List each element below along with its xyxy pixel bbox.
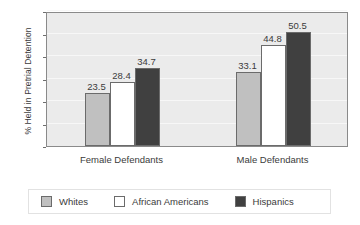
x-axis-category-label: Male Defendants	[197, 154, 348, 165]
bar-value-label: 44.8	[255, 34, 290, 44]
bar-value-label: 33.1	[230, 61, 265, 71]
x-axis-category-label: Female Defendants	[46, 154, 197, 165]
plot-area	[46, 12, 348, 147]
bar	[110, 82, 135, 146]
y-axis-tick-mark	[43, 57, 46, 58]
legend-item-label: Whites	[59, 196, 88, 207]
y-axis-tick-mark	[43, 35, 46, 36]
y-axis-tick-mark	[43, 125, 46, 126]
bar-value-label: 50.5	[280, 21, 315, 31]
bar	[236, 72, 261, 146]
legend-item-label: African Americans	[132, 196, 209, 207]
legend-item-label: Hispanics	[253, 196, 294, 207]
plot-inner	[47, 13, 347, 146]
y-axis-title: % Held in Pretrial Detention	[23, 6, 33, 156]
legend-swatch-icon	[114, 196, 125, 207]
y-axis-tick-mark	[43, 80, 46, 81]
y-axis-tick-mark	[43, 102, 46, 103]
y-axis-tick-mark	[43, 147, 46, 148]
legend-swatch-icon	[41, 196, 52, 207]
bar-chart: % Held in Pretrial Detention 01020304050…	[0, 0, 360, 225]
y-axis-tick-mark	[43, 12, 46, 13]
chart-legend: WhitesAfrican AmericansHispanics	[28, 189, 331, 214]
legend-item[interactable]: African Americans	[114, 196, 209, 207]
legend-item[interactable]: Whites	[41, 196, 88, 207]
bar	[85, 93, 110, 146]
bar-value-label: 28.4	[104, 71, 139, 81]
bar	[286, 32, 311, 146]
legend-swatch-icon	[235, 196, 246, 207]
gridline	[47, 10, 347, 11]
bar-value-label: 23.5	[79, 82, 114, 92]
bar-value-label: 34.7	[129, 57, 164, 67]
legend-item[interactable]: Hispanics	[235, 196, 294, 207]
